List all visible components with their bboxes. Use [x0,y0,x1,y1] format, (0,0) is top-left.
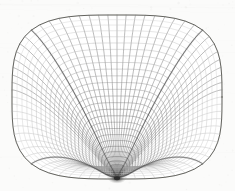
mesh-canvas [0,0,235,191]
wireframe-figure [0,0,235,191]
center-pole-singularity [108,173,127,184]
